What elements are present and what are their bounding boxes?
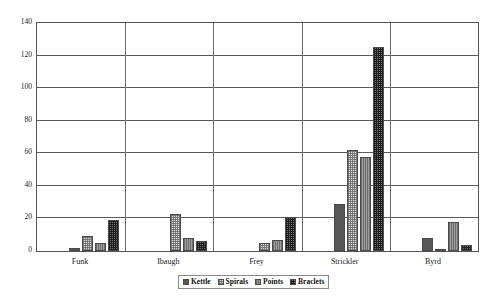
bar <box>82 236 93 251</box>
bar <box>183 238 194 251</box>
bar <box>422 238 433 251</box>
legend-item: Points <box>255 278 283 286</box>
bar <box>334 204 345 251</box>
legend-swatch-icon <box>183 279 189 285</box>
bar-chart: 020406080100120140 FunkIbaughFreyStrickl… <box>0 0 492 299</box>
gridline <box>37 87 478 88</box>
group-divider <box>213 23 214 251</box>
gridline <box>37 185 478 186</box>
y-axis-tick-label: 100 <box>2 83 32 91</box>
legend-swatch-icon <box>255 279 261 285</box>
y-axis-tick-label: 40 <box>2 181 32 189</box>
bar <box>259 243 270 251</box>
y-axis-tick-label: 60 <box>2 149 32 157</box>
legend-label: Kettle <box>191 278 211 286</box>
legend-label: Points <box>263 278 283 286</box>
gridline <box>37 217 478 218</box>
x-axis-category-label: Ibaugh <box>157 258 179 266</box>
bar <box>196 241 207 251</box>
bar <box>285 217 296 251</box>
x-axis-category-label: Byrd <box>425 258 441 266</box>
y-axis-tick-label: 120 <box>2 51 32 59</box>
gridline <box>37 152 478 153</box>
bar <box>108 220 119 251</box>
legend-item: Kettle <box>183 278 211 286</box>
legend-label: Braclets <box>298 278 324 286</box>
group-divider <box>390 23 391 251</box>
legend-item: Braclets <box>290 278 324 286</box>
group-divider <box>125 23 126 251</box>
y-axis-tick-label: 80 <box>2 116 32 124</box>
legend-label: Spirals <box>226 278 249 286</box>
x-axis-category-label: Strickler <box>331 258 359 266</box>
y-axis-tick-label: 140 <box>2 18 32 26</box>
y-axis-tick-label: 0 <box>2 246 32 254</box>
y-axis-tick-label: 20 <box>2 214 32 222</box>
bar <box>360 157 371 251</box>
bar <box>69 248 80 251</box>
legend-swatch-icon <box>290 279 296 285</box>
plot-area <box>36 22 479 252</box>
bar <box>435 249 446 251</box>
gridline <box>37 120 478 121</box>
legend-swatch-icon <box>218 279 224 285</box>
group-divider <box>302 23 303 251</box>
bar <box>272 240 283 251</box>
legend-item: Spirals <box>218 278 249 286</box>
bar <box>448 222 459 251</box>
bar <box>95 243 106 251</box>
x-axis-category-label: Funk <box>72 258 88 266</box>
bar <box>373 47 384 251</box>
bar <box>461 245 472 252</box>
bar <box>170 214 181 251</box>
chart-legend: KettleSpiralsPointsBraclets <box>178 275 329 289</box>
bar <box>347 150 358 251</box>
x-axis-category-label: Frey <box>249 258 264 266</box>
gridline <box>37 55 478 56</box>
